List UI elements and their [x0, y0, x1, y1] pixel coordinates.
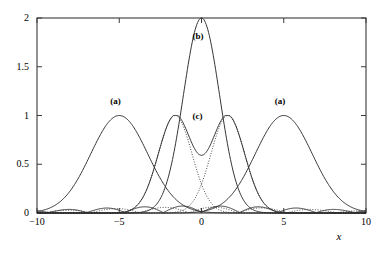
y-tick-label: 1 — [0, 111, 29, 121]
curve-label: (c) — [193, 112, 203, 121]
curve-a-left — [37, 116, 366, 214]
curve-label: (b) — [193, 32, 204, 41]
curve-dotted-right — [37, 116, 366, 213]
x-tick-label: 10 — [346, 217, 386, 227]
x-axis-title: x — [336, 230, 341, 242]
curve-label: (a) — [275, 97, 286, 106]
x-tick-label: 0 — [182, 217, 222, 227]
x-tick-label: −10 — [17, 217, 57, 227]
y-tick-label: 2 — [0, 13, 29, 23]
x-tick-label: 5 — [264, 217, 304, 227]
x-tick-label: −5 — [99, 217, 139, 227]
y-tick-label: 0.5 — [0, 159, 29, 169]
curve-label: (a) — [110, 97, 121, 106]
curve-dotted-left — [37, 116, 366, 213]
curve-a-right — [37, 116, 366, 214]
curve-c-solid — [37, 116, 366, 214]
chart-figure: 00.511.52 −10−50510 (a)(b)(c)(a) x — [0, 0, 392, 255]
y-tick-label: 1.5 — [0, 62, 29, 72]
